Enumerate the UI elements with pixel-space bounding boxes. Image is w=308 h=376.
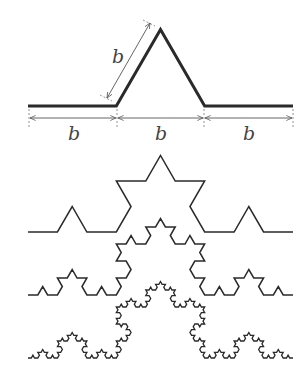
koch-generator: b b b b [28, 20, 293, 144]
koch-diagram: b b b b [0, 0, 308, 376]
koch-level-2 [28, 156, 293, 233]
bottom-label-3: b [243, 122, 255, 144]
koch-level-3 [28, 219, 293, 296]
slant-label: b [112, 45, 124, 67]
dimension-ticks [29, 20, 293, 127]
bottom-label-1: b [68, 122, 80, 144]
generator-curve [28, 30, 293, 107]
bottom-label-2: b [155, 122, 167, 144]
dimension-arrows [30, 23, 292, 118]
koch-level-4 [28, 282, 293, 359]
